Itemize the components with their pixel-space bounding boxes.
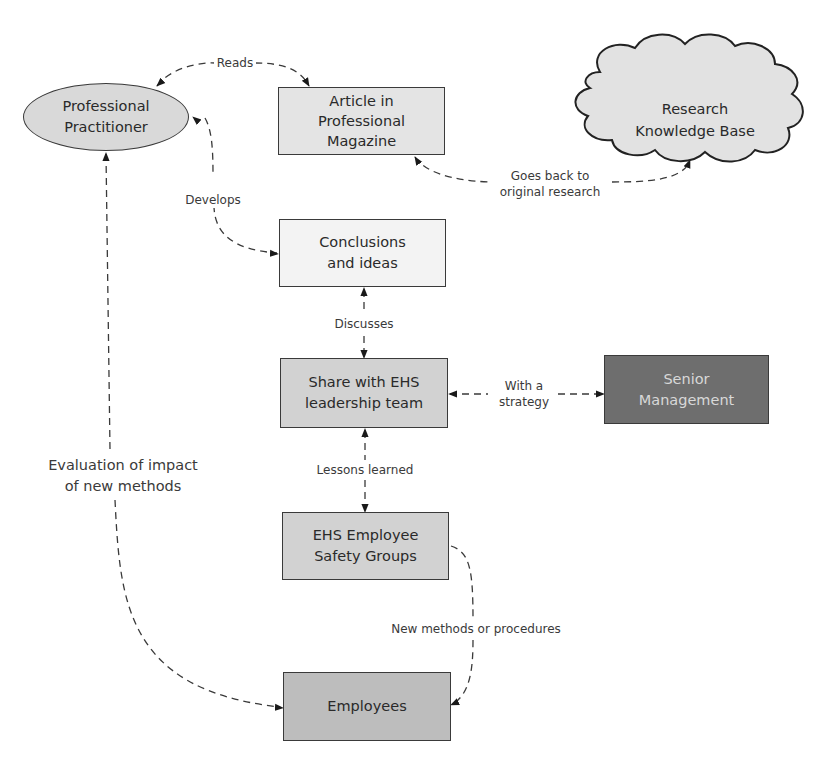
diagram-canvas: Professional Practitioner Article in Pro…: [0, 0, 829, 767]
edge-label-goes-back-to-original-research: Goes back to original research: [488, 168, 612, 200]
node-employees: Employees: [283, 672, 451, 741]
edge-label-new-methods-or-procedures: New methods or procedures: [386, 621, 566, 637]
node-label: Senior Management: [639, 369, 735, 411]
edge-label-lessons-learned: Lessons learned: [314, 462, 416, 478]
edge-develops: [205, 118, 277, 253]
node-professional-practitioner: Professional Practitioner: [23, 83, 189, 151]
edge-label-develops: Develops: [183, 192, 243, 208]
node-label: Professional Practitioner: [62, 96, 149, 138]
node-label: Employees: [327, 696, 406, 717]
node-label: EHS Employee Safety Groups: [313, 525, 419, 567]
edge-label-reads: Reads: [214, 55, 256, 71]
node-research-knowledge-base: Research Knowledge Base: [610, 76, 780, 142]
node-label: Article in Professional Magazine: [318, 91, 405, 151]
node-senior-management: Senior Management: [604, 355, 769, 424]
edge-label-evaluation-of-impact: Evaluation of impact of new methods: [38, 455, 208, 497]
edge-label-discusses: Discusses: [331, 316, 397, 332]
node-label: Share with EHS leadership team: [305, 372, 423, 414]
edge-evaluation: [106, 154, 280, 707]
node-share-with-ehs-leadership-team: Share with EHS leadership team: [280, 358, 448, 428]
node-ehs-employee-safety-groups: EHS Employee Safety Groups: [282, 512, 449, 580]
node-article-in-professional-magazine: Article in Professional Magazine: [278, 87, 445, 155]
edge-label-with-a-strategy: With a strategy: [492, 378, 556, 410]
node-conclusions-and-ideas: Conclusions and ideas: [279, 219, 446, 287]
node-label: Conclusions and ideas: [319, 232, 406, 274]
node-label: Research Knowledge Base: [635, 101, 755, 139]
